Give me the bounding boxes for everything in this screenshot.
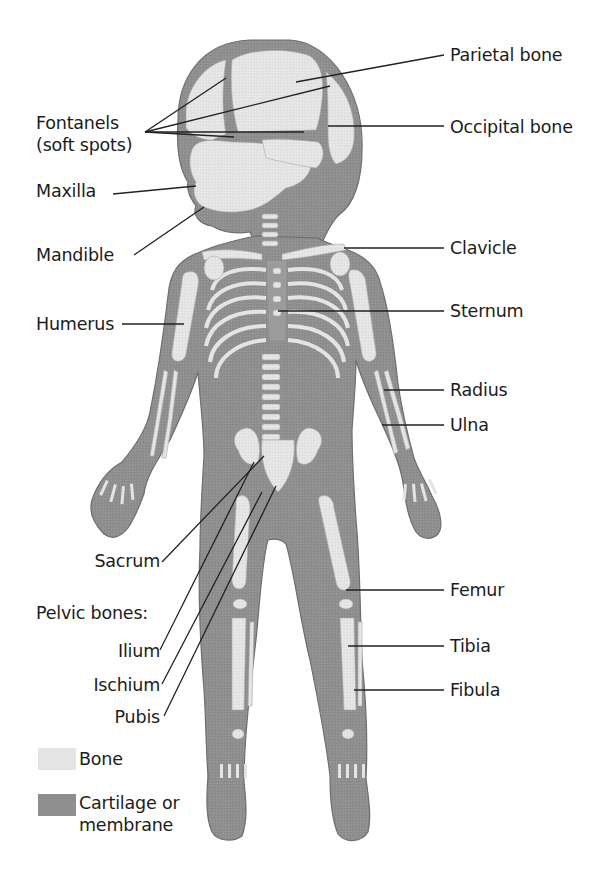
label-fontanels: Fontanels xyxy=(36,112,119,134)
legend-label-bone: Bone xyxy=(79,748,123,770)
label-radius: Radius xyxy=(450,379,507,401)
fibula-shape xyxy=(358,622,362,706)
legend-label-membrane: membrane xyxy=(79,814,173,836)
label-fibula: Fibula xyxy=(450,679,500,701)
label-ischium: Ischium xyxy=(60,674,160,696)
leader-maxilla xyxy=(113,186,196,194)
leader-mandible xyxy=(134,207,204,255)
legend-label-cartilage: Cartilage or xyxy=(79,792,179,814)
label-pubis: Pubis xyxy=(60,706,160,728)
label-sacrum: Sacrum xyxy=(60,550,160,572)
label-femur: Femur xyxy=(450,579,504,601)
label-clavicle: Clavicle xyxy=(450,237,517,259)
label-ilium: Ilium xyxy=(60,640,160,662)
label-sternum: Sternum xyxy=(450,300,523,322)
label-occipital-bone: Occipital bone xyxy=(450,116,573,138)
label-parietal-bone: Parietal bone xyxy=(450,44,562,66)
legend-swatch-bone xyxy=(38,748,76,770)
label-pelvic-bones: Pelvic bones: xyxy=(36,602,148,624)
label-mandible: Mandible xyxy=(36,244,114,266)
legend-swatch-cartilage xyxy=(38,794,76,816)
label-humerus: Humerus xyxy=(36,313,114,335)
label-maxilla: Maxilla xyxy=(36,180,96,202)
tibia-shape xyxy=(232,618,246,710)
label-tibia: Tibia xyxy=(450,635,491,657)
label-ulna: Ulna xyxy=(450,414,489,436)
label-fontanels-sub: (soft spots) xyxy=(36,134,132,156)
